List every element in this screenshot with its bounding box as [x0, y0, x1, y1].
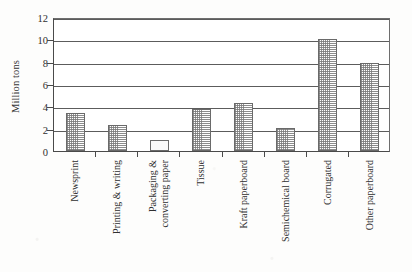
x-category-label-0-line-0: Newsprint: [69, 160, 80, 202]
bar-0: [66, 113, 85, 151]
x-category-label-6-line-0: Corrugated: [321, 160, 332, 205]
y-tick-label-0: 0: [8, 147, 48, 158]
x-category-label-2-line-1: converting paper: [159, 160, 170, 227]
gridline-10: [54, 41, 389, 42]
x-tick-2: [137, 152, 138, 157]
y-tick-label-8: 8: [8, 57, 48, 68]
x-category-label-1-line-0: Printing & writing: [111, 160, 122, 234]
y-tick-label-6: 6: [8, 80, 48, 91]
plot-area: [53, 18, 390, 152]
y-tick-label-10: 10: [8, 35, 48, 46]
x-tick-4: [222, 152, 223, 157]
x-category-label-4-line-0: Kraft paperboard: [237, 160, 248, 229]
x-tick-3: [179, 152, 180, 157]
x-tick-6: [306, 152, 307, 157]
gridline-4: [54, 108, 389, 109]
bar-5: [276, 128, 295, 151]
x-tick-1: [95, 152, 96, 157]
gridline-6: [54, 86, 389, 87]
gridline-12: [54, 19, 389, 20]
x-category-label-2-line-0: Packaging &: [147, 160, 158, 212]
x-tick-5: [264, 152, 265, 157]
bar-4: [234, 103, 253, 151]
x-tick-7: [348, 152, 349, 157]
y-tick-label-12: 12: [8, 13, 48, 24]
gridline-2: [54, 131, 389, 132]
gridline-8: [54, 64, 389, 65]
y-tick-label-4: 4: [8, 102, 48, 113]
y-tick-label-2: 2: [8, 124, 48, 135]
bar-2: [150, 140, 169, 151]
bar-7: [360, 63, 379, 151]
bar-1: [108, 125, 127, 151]
x-category-label-3-line-0: Tissue: [195, 160, 206, 186]
bar-chart-figure: Million tons 024681012 NewsprintPrinting…: [0, 0, 412, 272]
x-category-label-7-line-0: Other paperboard: [363, 160, 374, 230]
bar-6: [318, 39, 337, 151]
x-category-label-5-line-0: Semichemical board: [279, 160, 290, 242]
bar-3: [192, 109, 211, 151]
